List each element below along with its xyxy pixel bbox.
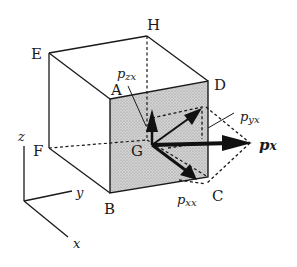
- vertex-label-f: F: [33, 142, 43, 160]
- vector-label-pxx: pxx: [177, 192, 197, 208]
- stress-cube-diagram: E H D A F B C G pzx pyx pxx px z y x: [0, 0, 297, 267]
- axis-label-y: y: [75, 185, 84, 200]
- vertex-label-b: B: [104, 200, 115, 218]
- vertex-label-a: A: [110, 81, 122, 99]
- pyx-leader: [208, 113, 234, 128]
- vector-label-pyx: pyx: [240, 109, 260, 125]
- vertex-label-h: H: [147, 16, 160, 34]
- axis-label-z: z: [17, 129, 25, 144]
- vector-label-pzx: pzx: [117, 66, 137, 82]
- vertex-label-d: D: [214, 76, 226, 94]
- px-arrowhead: [222, 135, 252, 151]
- vector-label-px: px: [259, 136, 278, 154]
- vertex-label-e: E: [31, 45, 42, 63]
- vertex-label-c: C: [212, 187, 223, 205]
- point-label-g: G: [131, 142, 143, 160]
- axis-label-x: x: [73, 236, 81, 251]
